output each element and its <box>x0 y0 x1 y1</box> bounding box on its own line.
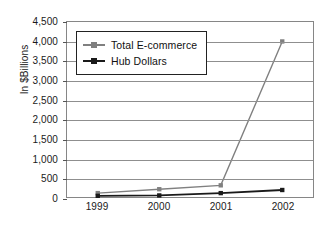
legend-label-total-ecommerce: Total E-commerce <box>111 39 197 51</box>
data-point-marker <box>219 183 223 187</box>
y-axis-tickmark <box>63 81 67 82</box>
legend-item-total-ecommerce: Total E-commerce <box>83 37 197 53</box>
x-axis-tick-labels: 1999200020012002 <box>66 201 314 221</box>
y-axis-tick-label: 2,000 <box>32 114 58 125</box>
gridline <box>67 120 313 121</box>
y-axis-tickmark <box>63 140 67 141</box>
y-axis-tick-label: 4,500 <box>32 16 58 27</box>
data-point-marker <box>219 191 223 195</box>
y-axis-tickmark <box>63 61 67 62</box>
legend-marker-total-ecommerce-icon <box>83 39 105 51</box>
gridline <box>67 140 313 141</box>
data-point-marker <box>96 194 100 198</box>
y-axis-tickmark <box>63 179 67 180</box>
data-point-marker <box>157 193 161 197</box>
y-axis-tickmark <box>63 160 67 161</box>
gridline <box>67 101 313 102</box>
y-axis-tick-labels: 05001,0001,5002,0002,5003,0003,5004,0004… <box>0 0 62 239</box>
gridline <box>67 160 313 161</box>
y-axis-tick-label: 3,000 <box>32 75 58 86</box>
data-point-marker <box>280 188 284 192</box>
legend-marker-hub-dollars-icon <box>83 55 105 67</box>
legend-label-hub-dollars: Hub Dollars <box>111 55 167 67</box>
y-axis-tick-label: 500 <box>41 173 58 184</box>
y-axis-tick-label: 2,500 <box>32 94 58 105</box>
gridline <box>67 179 313 180</box>
chart-legend: Total E-commerce Hub Dollars <box>76 31 207 75</box>
y-axis-tick-label: 1,000 <box>32 153 58 164</box>
x-axis-tick-label: 2002 <box>272 201 295 212</box>
y-axis-tickmark <box>63 199 67 200</box>
y-axis-tickmark <box>63 101 67 102</box>
y-axis-tickmark <box>63 120 67 121</box>
y-axis-tickmark <box>63 22 67 23</box>
x-axis-tick-label: 2000 <box>148 201 171 212</box>
gridline <box>67 81 313 82</box>
line-chart: In $Billions 05001,0001,5002,0002,5003,0… <box>0 0 329 239</box>
legend-item-hub-dollars: Hub Dollars <box>83 53 197 69</box>
x-axis-tick-label: 1999 <box>86 201 109 212</box>
y-axis-tick-label: 3,500 <box>32 55 58 66</box>
y-axis-tick-label: 0 <box>52 193 58 204</box>
data-point-marker <box>157 187 161 191</box>
y-axis-tick-label: 1,500 <box>32 134 58 145</box>
y-axis-tickmark <box>63 42 67 43</box>
y-axis-tick-label: 4,000 <box>32 35 58 46</box>
x-axis-tick-label: 2001 <box>210 201 233 212</box>
